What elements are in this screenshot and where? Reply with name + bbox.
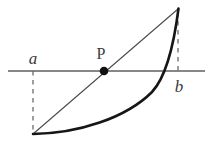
point-p-marker — [100, 67, 109, 76]
label-p: P — [97, 45, 106, 62]
label-b: b — [175, 77, 184, 96]
convex-function-diagram: a P b — [0, 0, 208, 146]
label-a: a — [29, 49, 38, 68]
figure-container: a P b — [0, 0, 208, 146]
